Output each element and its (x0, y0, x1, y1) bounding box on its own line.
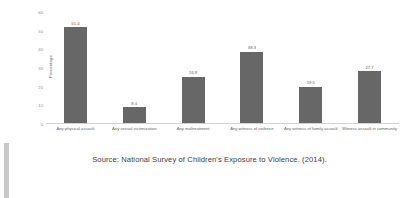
bar-chart: Percentage 0102030405060 51.48.424.938.3… (24, 12, 399, 124)
y-tick-label: 40 (38, 47, 43, 52)
y-axis-ticks: 0102030405060 (24, 12, 46, 124)
page-edge-marker (4, 143, 9, 198)
x-category-label: Any witness of violence (222, 126, 281, 131)
y-tick-label: 50 (38, 28, 43, 33)
x-category-label: Any witness of family assault (281, 126, 340, 131)
x-category-label: Any physical assault (46, 126, 105, 131)
bar (358, 71, 381, 123)
chart-figure: Percentage 0102030405060 51.48.424.938.3… (0, 0, 419, 198)
bar-value-label: 19.5 (307, 80, 315, 85)
x-category-label: Any sexual victimization (105, 126, 164, 131)
x-category-label: Witness assault in community (340, 126, 399, 131)
bar-slot: 27.7 (340, 12, 399, 123)
bar-value-label: 27.7 (365, 65, 373, 70)
y-tick-label: 20 (38, 84, 43, 89)
bar-slot: 38.3 (222, 12, 281, 123)
bar-slot: 24.9 (164, 12, 223, 123)
bar-slot: 51.4 (46, 12, 105, 123)
bar-value-label: 24.9 (189, 70, 197, 75)
bar-group: 51.48.424.938.319.527.7 (46, 12, 399, 123)
bar-value-label: 38.3 (248, 45, 256, 50)
bar-slot: 8.4 (105, 12, 164, 123)
bar (64, 27, 87, 123)
plot-area: 51.48.424.938.319.527.7 (46, 12, 399, 124)
bar-slot: 19.5 (281, 12, 340, 123)
y-tick-label: 0 (41, 122, 43, 127)
y-tick-label: 60 (38, 10, 43, 15)
bar (240, 52, 263, 123)
bar-value-label: 51.4 (71, 21, 79, 26)
x-category-label: Any maltreatment (164, 126, 223, 131)
y-tick-label: 30 (38, 66, 43, 71)
bar-value-label: 8.4 (131, 101, 137, 106)
source-caption: Source: National Survey of Children's Ex… (0, 155, 419, 164)
x-axis-categories: Any physical assaultAny sexual victimiza… (46, 126, 399, 131)
bar (182, 77, 205, 123)
bar (299, 87, 322, 123)
y-tick-label: 10 (38, 103, 43, 108)
bar (123, 107, 146, 123)
